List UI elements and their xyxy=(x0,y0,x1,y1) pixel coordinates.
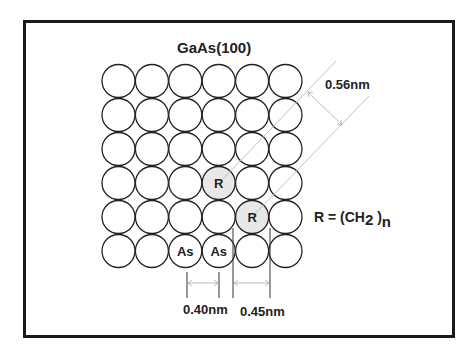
atom-grid xyxy=(102,65,302,268)
chain-spacing-arrow xyxy=(308,92,342,125)
r-group-formula: R = (CH2 )n xyxy=(314,209,391,224)
atom xyxy=(202,201,235,234)
atom xyxy=(202,133,235,166)
formula-subscript-n: n xyxy=(382,213,391,230)
atom xyxy=(169,167,202,200)
atom xyxy=(135,167,168,200)
as-spacing-label: 0.40nm xyxy=(183,303,228,316)
atom xyxy=(269,201,302,234)
atom xyxy=(169,201,202,234)
atom xyxy=(236,99,269,132)
atom-label: As xyxy=(177,244,194,259)
atom xyxy=(102,167,135,200)
atom xyxy=(169,99,202,132)
atom xyxy=(135,99,168,132)
atom xyxy=(102,201,135,234)
atom-label: R xyxy=(214,176,224,191)
atom xyxy=(102,133,135,166)
diagram-canvas: RRAsAs GaAs(100) 0.56nm 0.40nm 0.45nm R … xyxy=(0,0,476,358)
chain-spacing-label: 0.56nm xyxy=(325,78,370,91)
atom xyxy=(102,65,135,98)
atom xyxy=(135,65,168,98)
atom xyxy=(236,65,269,98)
formula-middle: ) xyxy=(373,209,382,225)
atom xyxy=(202,99,235,132)
diagram-title: GaAs(100) xyxy=(177,40,251,55)
atom xyxy=(269,99,302,132)
atom-label: As xyxy=(210,244,227,259)
atom xyxy=(269,133,302,166)
atom xyxy=(169,133,202,166)
formula-prefix: R = (CH xyxy=(314,209,365,225)
atom xyxy=(102,235,135,268)
r-spacing-label: 0.45nm xyxy=(240,305,285,318)
atom xyxy=(269,65,302,98)
atom xyxy=(135,235,168,268)
formula-subscript-2: 2 xyxy=(365,211,373,228)
atom xyxy=(202,65,235,98)
atom xyxy=(236,167,269,200)
atom xyxy=(269,235,302,268)
atom xyxy=(102,99,135,132)
atom xyxy=(236,235,269,268)
atom xyxy=(169,65,202,98)
atom xyxy=(135,133,168,166)
atom xyxy=(135,201,168,234)
atom-label: R xyxy=(247,210,257,225)
